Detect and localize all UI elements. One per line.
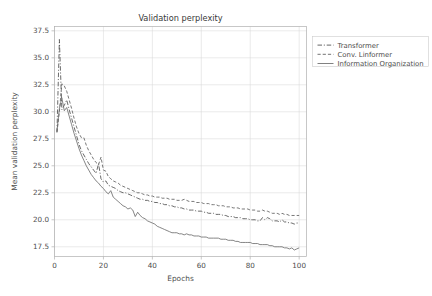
chart-figure: 17.520.022.525.027.530.032.535.037.5 020… <box>0 0 432 296</box>
legend-label-transformer: Transformer <box>337 42 380 50</box>
xtick-label-20: 20 <box>99 261 109 270</box>
chart-title: Validation perplexity <box>138 13 222 23</box>
x-axis-title: Epochs <box>167 274 194 283</box>
chart-legend: TransformerConv. LinformerInformation Or… <box>313 37 429 69</box>
xtick-label-40: 40 <box>148 261 158 270</box>
ytick-label-30.0: 30.0 <box>33 107 49 116</box>
ytick-label-17.5: 17.5 <box>33 242 49 251</box>
xtick-label-100: 100 <box>292 261 306 270</box>
plot-area-background <box>55 27 307 257</box>
ytick-label-37.5: 37.5 <box>33 26 49 35</box>
ytick-label-27.5: 27.5 <box>33 134 49 143</box>
legend-label-information-organization: Information Organization <box>338 60 424 68</box>
y-axis-tick-labels: 17.520.022.525.027.530.032.535.037.5 <box>33 26 49 251</box>
ytick-label-22.5: 22.5 <box>33 188 49 197</box>
ytick-label-32.5: 32.5 <box>33 80 49 89</box>
ytick-label-20.0: 20.0 <box>33 215 49 224</box>
ytick-label-25.0: 25.0 <box>33 161 49 170</box>
y-axis-title: Mean validation perplexity <box>10 92 19 191</box>
xtick-label-80: 80 <box>246 261 256 270</box>
xtick-label-0: 0 <box>52 261 57 270</box>
xtick-label-60: 60 <box>197 261 207 270</box>
legend-label-conv-linformer: Conv. Linformer <box>338 51 393 59</box>
validation-perplexity-chart: 17.520.022.525.027.530.032.535.037.5 020… <box>0 0 432 296</box>
ytick-label-35.0: 35.0 <box>33 53 49 62</box>
